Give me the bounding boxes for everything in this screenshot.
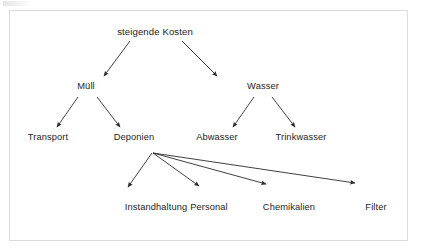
node-transport: Transport	[28, 132, 68, 143]
node-filter: Filter	[365, 202, 386, 213]
node-chemikalien: Chemikalien	[263, 202, 315, 213]
edge-muell-to-transport	[57, 97, 78, 127]
edge-group	[57, 41, 355, 187]
node-trinkwasser: Trinkwasser	[276, 132, 327, 143]
edge-deponien-to-personal	[153, 153, 199, 186]
arrow-layer	[0, 0, 421, 251]
node-wasser: Wasser	[247, 81, 279, 92]
edge-deponien-to-filter	[153, 153, 355, 183]
edge-kosten-to-muell	[104, 41, 130, 76]
node-deponien: Deponien	[114, 132, 155, 143]
edge-kosten-to-wasser	[182, 41, 217, 76]
node-muell: Müll	[77, 81, 94, 92]
edge-muell-to-deponien	[97, 97, 120, 127]
node-instandhaltung: Instandhaltung	[125, 202, 187, 213]
node-personal: Personal	[190, 202, 228, 213]
node-abwasser: Abwasser	[196, 132, 238, 143]
node-kosten: steigende Kosten	[117, 26, 193, 37]
edge-deponien-to-instandhaltung	[128, 153, 152, 187]
edge-deponien-to-chemikalien	[153, 153, 266, 184]
diagram-canvas: steigende KostenMüllWasserTransportDepon…	[0, 0, 421, 251]
edge-wasser-to-trinkwasser	[272, 97, 295, 127]
edge-wasser-to-abwasser	[233, 97, 254, 127]
